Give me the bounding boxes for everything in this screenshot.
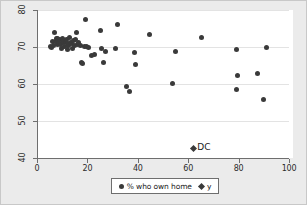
data-point-circle: [199, 35, 204, 40]
chart-legend: % who own home y: [111, 178, 219, 194]
legend-item-y: y: [199, 182, 211, 191]
x-tick: [188, 159, 189, 163]
x-tick: [289, 159, 290, 163]
y-axis-line: [37, 10, 38, 158]
y-tick-label: 50: [18, 113, 27, 129]
data-point-circle: [124, 84, 129, 89]
data-point-circle: [147, 32, 152, 37]
y-tick: [33, 10, 37, 11]
gridline: [37, 121, 289, 122]
x-tick: [37, 159, 38, 163]
x-tick-label: 20: [76, 164, 98, 173]
x-tick-label: 100: [278, 164, 300, 173]
y-tick: [33, 84, 37, 85]
x-tick: [87, 159, 88, 163]
y-tick-label: 70: [18, 39, 27, 55]
y-tick-label: 80: [18, 2, 27, 18]
gridline: [37, 84, 289, 85]
data-point-circle: [127, 89, 132, 94]
data-point-circle: [234, 87, 239, 92]
y-tick-label: 60: [18, 76, 27, 92]
scatter-plot-figure: 8070605040 020406080100 DC % who own hom…: [0, 0, 307, 205]
y-tick: [33, 121, 37, 122]
x-tick-label: 0: [26, 164, 48, 173]
data-point-circle: [255, 71, 260, 76]
data-point-circle: [103, 49, 108, 54]
data-point-circle: [115, 22, 120, 27]
diamond-marker-icon: [198, 182, 205, 189]
data-point-circle: [52, 30, 57, 35]
data-point-circle: [235, 73, 240, 78]
x-tick: [239, 159, 240, 163]
data-point-circle: [113, 46, 118, 51]
x-tick: [138, 159, 139, 163]
dc-annotation-label: DC: [197, 142, 210, 152]
circle-marker-icon: [119, 184, 124, 189]
data-point-circle: [173, 49, 178, 54]
legend-label-y: y: [207, 182, 211, 191]
x-axis-line: [37, 158, 289, 159]
x-tick-label: 60: [177, 164, 199, 173]
legend-item-own-home: % who own home: [119, 182, 192, 191]
legend-label-own-home: % who own home: [127, 182, 192, 191]
data-point-circle: [261, 97, 266, 102]
x-tick-label: 40: [127, 164, 149, 173]
gridline: [37, 10, 289, 11]
x-tick-label: 80: [228, 164, 250, 173]
data-point-circle: [86, 45, 91, 50]
y-tick: [33, 47, 37, 48]
